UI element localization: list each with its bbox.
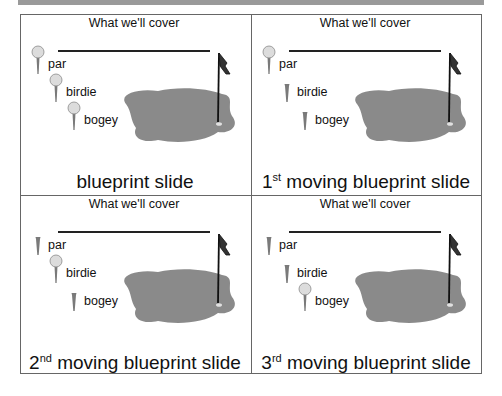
slide-panel-3: What we'll cover parbirdiebogey 2nd movi… [20, 195, 250, 375]
slide-panel-4: What we'll cover parbirdiebogey 3rd movi… [251, 195, 481, 375]
item-label-par: par [279, 238, 297, 252]
slide-title: 3rd moving blueprint slide [251, 352, 481, 374]
item-label-bogey: bogey [315, 294, 349, 308]
item-label-par: par [48, 57, 66, 71]
top-band [18, 0, 484, 5]
panel-heading: What we'll cover [58, 197, 210, 211]
panel-heading: What we'll cover [289, 197, 441, 211]
item-label-par: par [279, 57, 297, 71]
title-ordinal-suffix: st [272, 171, 281, 183]
item-label-birdie: birdie [66, 85, 97, 99]
heading-rule [58, 50, 210, 52]
item-label-par: par [48, 238, 66, 252]
title-text: moving blueprint slide [52, 352, 241, 373]
item-label-birdie: birdie [297, 85, 328, 99]
panels-container: What we'll cover parbirdiebogey blueprin… [20, 14, 482, 374]
flag-icon [214, 52, 234, 124]
heading-rule [289, 50, 441, 52]
flag-icon [445, 52, 465, 124]
flag-icon [214, 233, 234, 305]
golf-ball-on-tee-icon [67, 101, 81, 131]
item-label-birdie: birdie [297, 266, 328, 280]
golf-ball-on-tee-icon [262, 45, 276, 75]
golf-ball-on-tee-icon [298, 282, 312, 312]
golf-ball-on-tee-icon [49, 254, 63, 284]
title-number: 2 [29, 352, 40, 373]
panel-heading: What we'll cover [58, 16, 210, 30]
title-number: 1 [262, 171, 273, 192]
panel-heading: What we'll cover [289, 16, 441, 30]
title-ordinal-suffix: nd [40, 352, 52, 364]
slide-title: 2nd moving blueprint slide [20, 352, 250, 374]
empty-tee-icon [280, 263, 294, 293]
title-text: moving blueprint slide [282, 352, 471, 373]
item-label-bogey: bogey [84, 294, 118, 308]
title-number: 3 [261, 352, 272, 373]
heading-rule [289, 231, 441, 233]
empty-tee-icon [31, 235, 45, 265]
empty-tee-icon [262, 235, 276, 265]
item-label-bogey: bogey [315, 113, 349, 127]
golf-ball-on-tee-icon [49, 73, 63, 103]
flag-icon [445, 233, 465, 305]
item-label-bogey: bogey [84, 113, 118, 127]
heading-rule [58, 231, 210, 233]
empty-tee-icon [298, 110, 312, 140]
slide-panel-1: What we'll cover parbirdiebogey blueprin… [20, 14, 250, 194]
empty-tee-icon [67, 291, 81, 321]
item-label-birdie: birdie [66, 266, 97, 280]
title-text: moving blueprint slide [281, 171, 470, 192]
golf-ball-on-tee-icon [31, 45, 45, 75]
slide-panel-2: What we'll cover parbirdiebogey 1st movi… [251, 14, 481, 194]
slide-title: 1st moving blueprint slide [251, 171, 481, 193]
title-ordinal-suffix: rd [272, 352, 282, 364]
title-text: blueprint slide [76, 171, 193, 192]
empty-tee-icon [280, 82, 294, 112]
slide-title: blueprint slide [20, 171, 250, 193]
